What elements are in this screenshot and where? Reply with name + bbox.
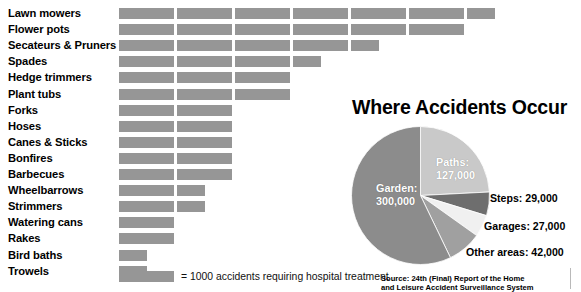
bar-row-label: Wheelbarrows: [8, 184, 113, 197]
bar-row: Secateurs & Pruners: [0, 39, 581, 55]
bar-row-label: Barbecues: [8, 168, 113, 181]
bar-segment: [293, 8, 348, 19]
bar-segment: [119, 121, 174, 132]
bar-row-label: Watering cans: [8, 216, 113, 229]
bar-segment: [235, 40, 290, 51]
bar-row-label: Secateurs & Pruners: [8, 39, 113, 52]
bar-row: Lawn mowers: [0, 7, 581, 23]
bar-segment: [235, 89, 290, 100]
pie-label-paths-value: 127,000: [436, 169, 475, 182]
bar-segment: [177, 40, 232, 51]
bar-track: [119, 217, 174, 228]
bar-segment: [119, 105, 174, 116]
bar-segment: [177, 153, 232, 164]
bar-row: Hedge trimmers: [0, 71, 581, 87]
bar-segment: [293, 40, 348, 51]
bar-row-label: Bonfires: [8, 152, 113, 165]
bar-segment: [119, 8, 174, 19]
bar-row-label: Canes & Sticks: [8, 136, 113, 149]
source-line-2: and Leisure Accident Surveillance System: [381, 284, 581, 292]
bar-track: [119, 40, 379, 51]
bar-segment: [235, 72, 290, 83]
bar-segment: [119, 89, 174, 100]
bar-segment: [119, 40, 174, 51]
bar-segment: [351, 8, 406, 19]
pie-label-paths: Paths: 127,000: [436, 156, 475, 181]
bar-row: Canes & Sticks: [0, 136, 581, 152]
source-note: Source: 24th (Final) Report of the Home …: [381, 275, 581, 292]
bar-row: Flower pots: [0, 23, 581, 39]
bar-segment: [119, 137, 174, 148]
pie-label-garages: Garages: 27,000: [484, 220, 565, 233]
bar-track: [119, 185, 205, 196]
bar-track: [119, 24, 464, 35]
bar-segment: [177, 89, 232, 100]
bar-track: [119, 72, 290, 83]
bar-track: [119, 169, 232, 180]
bar-track: [119, 153, 232, 164]
bar-segment: [177, 8, 232, 19]
pie-label-paths-name: Paths:: [436, 156, 475, 169]
bar-row-label: Hedge trimmers: [8, 71, 113, 84]
bar-segment: [409, 24, 464, 35]
bar-segment: [177, 105, 232, 116]
bar-segment: [119, 217, 174, 228]
bar-segment: [177, 185, 205, 196]
bar-row-label: Bird baths: [8, 249, 113, 262]
pie-label-garden-name: Garden:: [376, 182, 417, 195]
bar-segment: [119, 233, 174, 244]
bar-segment: [409, 8, 464, 19]
bar-segment: [119, 24, 174, 35]
bar-segment: [177, 137, 232, 148]
bar-segment: [119, 185, 174, 196]
bar-segment: [293, 56, 321, 67]
bar-segment: [235, 56, 290, 67]
bar-row: Barbecues: [0, 168, 581, 184]
bar-segment: [467, 8, 495, 19]
pie-label-other-areas: Other areas: 42,000: [466, 246, 564, 259]
divider: [570, 268, 571, 289]
bar-row-label: Forks: [8, 104, 113, 117]
bar-row: Hoses: [0, 120, 581, 136]
legend-label: = 1000 accidents requiring hospital trea…: [181, 270, 389, 283]
pie-label-garden: Garden: 300,000: [376, 182, 417, 207]
bar-segment: [235, 8, 290, 19]
bar-track: [119, 250, 147, 261]
legend-swatch: [119, 271, 174, 282]
bar-segment: [177, 201, 205, 212]
bar-segment: [351, 24, 406, 35]
bar-row-label: Flower pots: [8, 23, 113, 36]
bar-segment: [235, 24, 290, 35]
bar-row-label: Rakes: [8, 232, 113, 245]
bar-row-label: Hoses: [8, 120, 113, 133]
bar-row-label: Plant tubs: [8, 88, 113, 101]
bar-track: [119, 233, 174, 244]
bar-segment: [119, 56, 174, 67]
bar-segment: [119, 250, 147, 261]
bar-row-label: Spades: [8, 55, 113, 68]
bar-segment: [177, 169, 232, 180]
bar-track: [119, 8, 495, 19]
bar-row: Bonfires: [0, 152, 581, 168]
bar-segment: [119, 72, 174, 83]
bar-track: [119, 121, 232, 132]
pie-label-garden-value: 300,000: [376, 195, 417, 208]
bar-row-label: Trowels: [8, 265, 113, 278]
bar-row-label: Lawn mowers: [8, 7, 113, 20]
bar-segment: [177, 24, 232, 35]
bar-segment: [119, 153, 174, 164]
bar-segment: [351, 40, 379, 51]
bar-segment: [119, 169, 174, 180]
pie-chart: [350, 125, 491, 266]
pie-chart-title: Where Accidents Occur: [338, 96, 581, 119]
pie-label-steps: Steps: 29,000: [490, 192, 558, 205]
bar-segment: [177, 56, 232, 67]
bar-row: Spades: [0, 55, 581, 71]
bar-segment: [293, 24, 348, 35]
bar-track: [119, 137, 232, 148]
bar-track: [119, 56, 321, 67]
bar-segment: [177, 72, 232, 83]
bar-track: [119, 89, 290, 100]
bar-segment: [177, 121, 232, 132]
